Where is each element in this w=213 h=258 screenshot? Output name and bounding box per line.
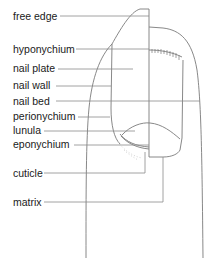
nail-anatomy-diagram: free edge hyponychium nail plate nail wa…	[0, 0, 213, 258]
skin-fold-dots-2	[124, 150, 138, 160]
label-cuticle: cuticle	[13, 167, 44, 179]
hyponychium-curve	[149, 50, 182, 57]
label-eponychium: eponychium	[13, 138, 71, 150]
finger-outline-right	[149, 27, 203, 258]
label-lunula: lunula	[13, 124, 42, 136]
label-nail-bed: nail bed	[13, 95, 51, 107]
nail-plate-right	[149, 60, 183, 157]
label-matrix: matrix	[13, 196, 43, 208]
label-free-edge: free edge	[13, 10, 58, 22]
skin-fold-dots	[118, 142, 142, 158]
leader-cuticle	[44, 152, 145, 173]
label-nail-plate: nail plate	[13, 62, 56, 74]
nail-fold-left	[111, 44, 120, 144]
label-nail-wall: nail wall	[13, 79, 51, 91]
free-edge-curve	[112, 9, 149, 78]
cuticle-curve	[121, 136, 149, 149]
finger-outline-left	[86, 44, 112, 258]
label-perionychium: perionychium	[13, 110, 76, 122]
label-hyponychium: hyponychium	[13, 43, 76, 55]
